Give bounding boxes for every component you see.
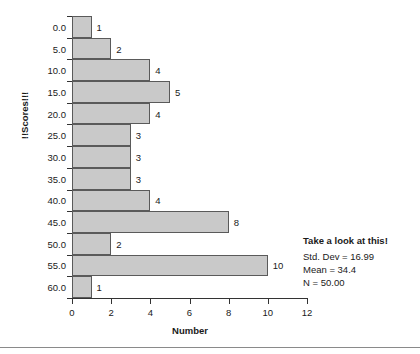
x-tick-label: 0 bbox=[57, 307, 87, 318]
bar-row: 2 bbox=[72, 233, 307, 255]
bar[interactable] bbox=[72, 81, 170, 103]
bar[interactable] bbox=[72, 38, 111, 60]
x-tick-label: 12 bbox=[292, 307, 322, 318]
histogram-chart: !!Scores!!! 12454333482101 0.05.010.015.… bbox=[0, 0, 420, 354]
bar-row: 3 bbox=[72, 124, 307, 146]
y-tick-mark bbox=[67, 38, 72, 39]
y-tick-label: 60.0 bbox=[16, 282, 66, 293]
x-tick-mark bbox=[72, 299, 73, 304]
bar-value-label: 3 bbox=[136, 173, 141, 184]
y-tick-label: 50.0 bbox=[16, 238, 66, 249]
y-tick-mark bbox=[67, 168, 72, 169]
y-tick-label: 35.0 bbox=[16, 173, 66, 184]
bar[interactable] bbox=[72, 276, 92, 298]
y-tick-mark bbox=[67, 81, 72, 82]
bar-value-label: 5 bbox=[175, 86, 180, 97]
y-tick-label: 55.0 bbox=[16, 260, 66, 271]
bar[interactable] bbox=[72, 211, 229, 233]
bar-row: 4 bbox=[72, 190, 307, 212]
y-tick-label: 10.0 bbox=[16, 65, 66, 76]
bar-value-label: 1 bbox=[97, 282, 102, 293]
y-tick-label: 15.0 bbox=[16, 86, 66, 97]
y-tick-label: 0.0 bbox=[16, 21, 66, 32]
annotation-n: N = 50.00 bbox=[303, 276, 418, 289]
y-tick-mark bbox=[67, 233, 72, 234]
bar-value-label: 2 bbox=[116, 43, 121, 54]
y-tick-label: 30.0 bbox=[16, 152, 66, 163]
y-tick-label: 45.0 bbox=[16, 217, 66, 228]
bar[interactable] bbox=[72, 168, 131, 190]
bar-value-label: 4 bbox=[155, 108, 160, 119]
x-axis-title: Number bbox=[72, 325, 308, 336]
bar[interactable] bbox=[72, 16, 92, 38]
x-tick-label: 10 bbox=[253, 307, 283, 318]
bar-row: 1 bbox=[72, 276, 307, 298]
x-tick-label: 4 bbox=[135, 307, 165, 318]
bar[interactable] bbox=[72, 103, 150, 125]
bar-value-label: 1 bbox=[97, 21, 102, 32]
bar-row: 10 bbox=[72, 255, 307, 277]
x-tick-mark bbox=[307, 299, 308, 304]
bar-value-label: 4 bbox=[155, 65, 160, 76]
x-tick-mark bbox=[268, 299, 269, 304]
x-tick-label: 8 bbox=[214, 307, 244, 318]
x-tick-mark bbox=[229, 299, 230, 304]
bar-row: 5 bbox=[72, 81, 307, 103]
y-tick-mark bbox=[67, 190, 72, 191]
x-tick-mark bbox=[190, 299, 191, 304]
y-tick-mark bbox=[67, 276, 72, 277]
bar-value-label: 8 bbox=[234, 217, 239, 228]
y-tick-label: 20.0 bbox=[16, 108, 66, 119]
y-tick-mark bbox=[67, 103, 72, 104]
x-tick-mark bbox=[150, 299, 151, 304]
bar-row: 3 bbox=[72, 168, 307, 190]
y-tick-label: 40.0 bbox=[16, 195, 66, 206]
annotation-mean: Mean = 34.4 bbox=[303, 263, 418, 276]
bar-row: 2 bbox=[72, 38, 307, 60]
bar-row: 4 bbox=[72, 59, 307, 81]
y-tick-mark bbox=[67, 16, 72, 17]
bar-row: 1 bbox=[72, 16, 307, 38]
x-tick-label: 6 bbox=[175, 307, 205, 318]
x-tick-label: 2 bbox=[96, 307, 126, 318]
bottom-divider bbox=[0, 347, 420, 348]
bar-row: 8 bbox=[72, 211, 307, 233]
bar[interactable] bbox=[72, 233, 111, 255]
y-tick-mark bbox=[67, 146, 72, 147]
bar-value-label: 10 bbox=[273, 260, 284, 271]
bar[interactable] bbox=[72, 190, 150, 212]
bar[interactable] bbox=[72, 59, 150, 81]
y-tick-label: 5.0 bbox=[16, 43, 66, 54]
bar-value-label: 4 bbox=[155, 195, 160, 206]
y-tick-mark bbox=[67, 255, 72, 256]
annotation-title: Take a look at this! bbox=[303, 234, 418, 247]
bar-row: 4 bbox=[72, 103, 307, 125]
bar[interactable] bbox=[72, 124, 131, 146]
x-tick-mark bbox=[111, 299, 112, 304]
bar-value-label: 3 bbox=[136, 130, 141, 141]
bar[interactable] bbox=[72, 146, 131, 168]
y-tick-label: 25.0 bbox=[16, 130, 66, 141]
y-tick-mark bbox=[67, 59, 72, 60]
bar-value-label: 2 bbox=[116, 238, 121, 249]
bar-value-label: 3 bbox=[136, 151, 141, 162]
y-tick-mark bbox=[67, 211, 72, 212]
bar[interactable] bbox=[72, 255, 268, 277]
annotation-std-dev: Std. Dev = 16.99 bbox=[303, 250, 418, 263]
y-tick-mark bbox=[67, 124, 72, 125]
annotation-box: Take a look at this! Std. Dev = 16.99 Me… bbox=[303, 234, 418, 289]
bar-row: 3 bbox=[72, 146, 307, 168]
